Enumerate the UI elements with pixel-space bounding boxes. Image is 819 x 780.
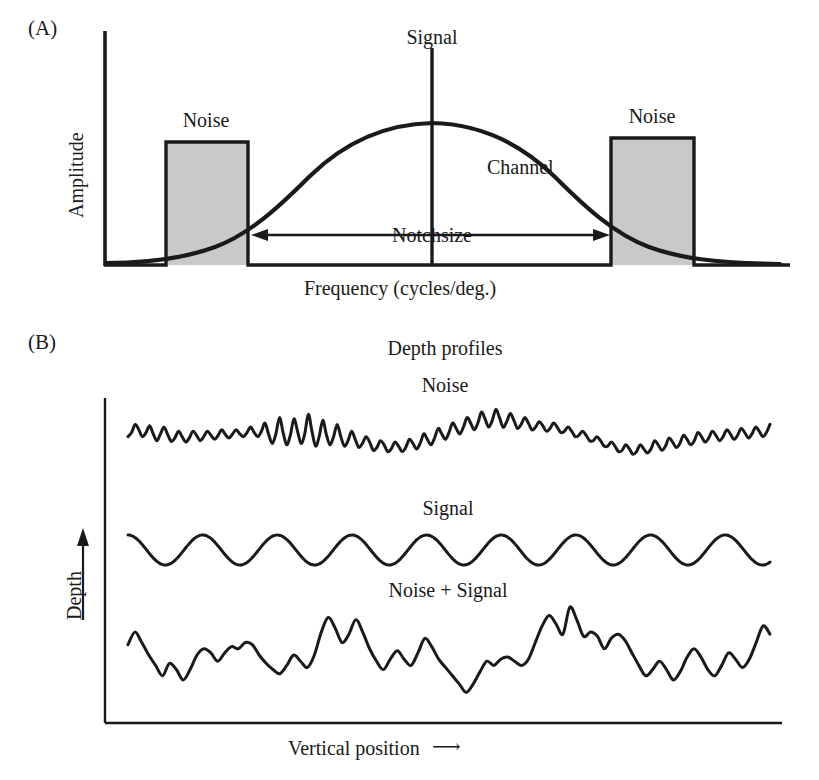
- panel-b-plot: [0, 0, 819, 780]
- trace-path-noise: [128, 409, 770, 454]
- trace-path-noise-plus-signal: [128, 607, 770, 693]
- trace-path-signal: [128, 535, 770, 565]
- figure-root: (A) Amplitude Frequency (cycles/deg.) Si…: [0, 0, 819, 780]
- depth-arrow-head: [77, 528, 89, 546]
